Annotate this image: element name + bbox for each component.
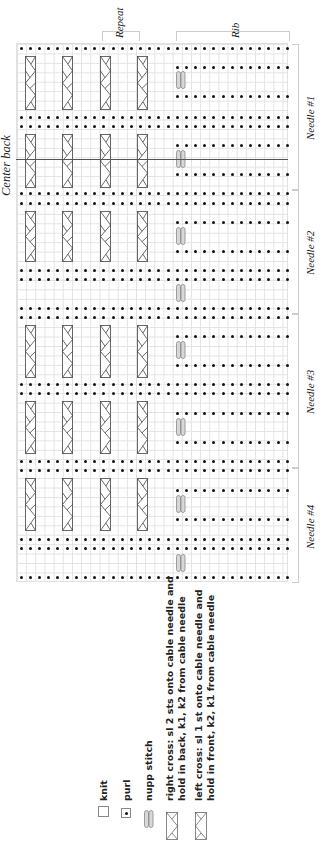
purl-dot (222, 392, 225, 395)
purl-dot (84, 116, 87, 119)
purl-dot (240, 66, 243, 69)
purl-dot (148, 576, 151, 579)
purl-dot (258, 335, 261, 338)
cable-cross-icon (62, 211, 73, 262)
purl-dot (130, 392, 133, 395)
purl-dot (222, 269, 225, 272)
purl-dot (231, 460, 234, 463)
purl-dot (194, 460, 197, 463)
purl-dot (240, 278, 243, 281)
purl-dot (240, 192, 243, 195)
purl-dot (203, 47, 206, 50)
purl-dot (20, 192, 23, 195)
purl-dot (29, 547, 32, 550)
purl-dot (286, 392, 289, 395)
purl-dot (222, 412, 225, 415)
purl-dot (102, 192, 105, 195)
purl-dot (258, 66, 261, 69)
purl-dot (66, 316, 69, 319)
purl-dot (84, 383, 87, 386)
purl-dot (222, 250, 225, 253)
purl-dot (249, 335, 252, 338)
purl-dot (194, 441, 197, 444)
purl-dot (112, 125, 115, 128)
purl-dot (203, 116, 206, 119)
needle-bracket-1 (292, 44, 299, 190)
purl-dot (286, 460, 289, 463)
purl-dot (194, 335, 197, 338)
purl-dot (185, 383, 188, 386)
cable-cross-icon (137, 56, 148, 110)
purl-dot (258, 441, 261, 444)
purl-dot (286, 47, 289, 50)
purl-dot (167, 269, 170, 272)
purl-dot (203, 144, 206, 147)
purl-dot (139, 392, 142, 395)
purl-dot (84, 576, 87, 579)
purl-dot (222, 441, 225, 444)
purl-dot (240, 412, 243, 415)
purl-dot (20, 202, 23, 205)
purl-dot (20, 383, 23, 386)
purl-dot (185, 250, 188, 253)
purl-dot (47, 383, 50, 386)
purl-dot (258, 576, 261, 579)
purl-dot (231, 307, 234, 310)
cable-cross-icon (62, 56, 73, 110)
purl-dot (277, 547, 280, 550)
purl-dot (194, 576, 197, 579)
cable-cross-icon (137, 401, 148, 454)
purl-dot (84, 307, 87, 310)
purl-dot (194, 221, 197, 224)
purl-dot (258, 469, 261, 472)
purl-dot (121, 116, 124, 119)
purl-dot (20, 116, 23, 119)
purl-dot (194, 95, 197, 98)
purl-dot (249, 460, 252, 463)
purl-dot (249, 125, 252, 128)
purl-dot (176, 173, 179, 176)
purl-dot (47, 576, 50, 579)
purl-dot (286, 66, 289, 69)
purl-dot (286, 192, 289, 195)
purl-dot (231, 278, 234, 281)
purl-dot (75, 383, 78, 386)
purl-dot (231, 383, 234, 386)
purl-dot (167, 469, 170, 472)
purl-dot (249, 364, 252, 367)
purl-dot (286, 144, 289, 147)
purl-dot (121, 576, 124, 579)
purl-dot (222, 202, 225, 205)
purl-dot (38, 383, 41, 386)
purl-dot (185, 278, 188, 281)
purl-dot (222, 307, 225, 310)
purl-dot (66, 125, 69, 128)
purl-dot (102, 469, 105, 472)
purl-dot (121, 392, 124, 395)
purl-dot (203, 95, 206, 98)
purl-dot (203, 278, 206, 281)
purl-dot (277, 47, 280, 50)
legend-right-cross-line2: hold in back, k1, k2 from cable needle (176, 576, 188, 801)
purl-dot (93, 307, 96, 310)
purl-dot (231, 250, 234, 253)
purl-dot (249, 192, 252, 195)
purl-dot (29, 538, 32, 541)
purl-dot (286, 383, 289, 386)
purl-dot (66, 383, 69, 386)
purl-dot (240, 576, 243, 579)
purl-dot (277, 66, 280, 69)
purl-dot (203, 518, 206, 521)
purl-dot (286, 116, 289, 119)
purl-dot (66, 116, 69, 119)
purl-dot (240, 392, 243, 395)
purl-dot (176, 441, 179, 444)
purl-dot (240, 538, 243, 541)
purl-dot (102, 576, 105, 579)
purl-dot (84, 392, 87, 395)
cable-cross-icon (100, 56, 111, 110)
purl-dot (231, 66, 234, 69)
purl-dot (277, 441, 280, 444)
purl-dot (231, 269, 234, 272)
purl-dot (249, 383, 252, 386)
